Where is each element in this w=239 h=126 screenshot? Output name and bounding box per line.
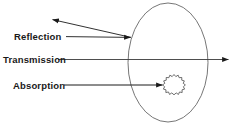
- reflection-incident-ray: [66, 37, 131, 38]
- absorption-label: Absorption: [13, 80, 65, 91]
- medium-ellipse: [128, 3, 208, 122]
- absorbing-particle-starburst: [163, 75, 186, 95]
- optics-diagram: Reflection Transmission Absorption: [0, 0, 239, 126]
- reflection-label: Reflection: [14, 31, 61, 42]
- diagram-canvas: Reflection Transmission Absorption: [0, 0, 239, 126]
- transmission-label: Transmission: [3, 54, 66, 65]
- reflection-outgoing-ray: [53, 20, 132, 38]
